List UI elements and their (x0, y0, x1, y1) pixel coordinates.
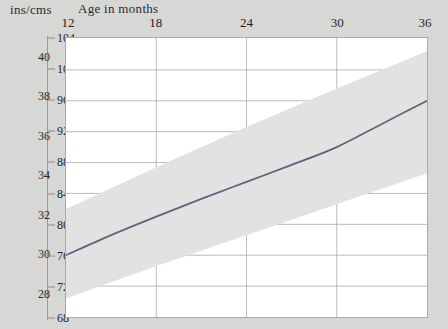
y-tickmark-inches-38 (40, 96, 47, 97)
plot-area (65, 37, 428, 318)
y-tickmark-cms-96 (48, 100, 55, 101)
y-tickmark-inches-28 (40, 293, 47, 294)
x-tick-30: 30 (331, 15, 344, 31)
y-tickmark-cms-92 (48, 131, 55, 132)
y-tickmark-cms-104 (48, 38, 55, 39)
y-tickmark-cms-88 (48, 162, 55, 163)
x-tick-24: 24 (240, 15, 253, 31)
age-axis-label: Age in months (78, 1, 158, 17)
y-tickmark-inches-34 (40, 175, 47, 176)
y-tickmark-cms-72 (48, 286, 55, 287)
y-tickmark-cms-76 (48, 255, 55, 256)
x-tick-36: 36 (419, 15, 432, 31)
x-tick-18: 18 (149, 15, 162, 31)
y-tickmark-inches-40 (40, 56, 47, 57)
y-tickmark-cms-100 (48, 69, 55, 70)
y-tickmark-inches-30 (40, 254, 47, 255)
y-tickmark-cms-80 (48, 224, 55, 225)
unit-axis-label: ins/cms (10, 2, 52, 18)
y-tickmark-inches-32 (40, 214, 47, 215)
y-tickmark-cms-84 (48, 193, 55, 194)
y-tickmark-inches-36 (40, 135, 47, 136)
plot-svg (66, 38, 427, 317)
y-tickmark-cms-68 (48, 318, 55, 319)
growth-chart: ins/cms Age in months 1218243036 2830323… (0, 0, 448, 329)
x-tick-12: 12 (62, 15, 75, 31)
